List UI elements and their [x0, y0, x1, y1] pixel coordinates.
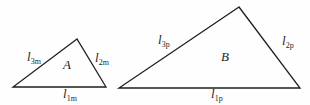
triangle-a-group: A l3m l2m l1m [13, 39, 110, 103]
triangle-b-group: B l3p l2p l1p [119, 7, 300, 103]
side-label-b-right: l2p [282, 33, 294, 50]
side-label-a-right: l2m [95, 50, 110, 67]
diagram-canvas: A l3m l2m l1m B l3p l2p l1p [0, 0, 310, 105]
side-label-a-left: l3m [27, 49, 42, 66]
triangle-b-outline [119, 7, 300, 88]
triangle-a-label: A [62, 57, 71, 72]
side-label-b-left: l3p [158, 32, 170, 49]
triangle-similarity-diagram: A l3m l2m l1m B l3p l2p l1p [0, 0, 310, 105]
side-label-a-bottom: l1m [63, 86, 78, 103]
triangle-b-label: B [221, 49, 229, 64]
